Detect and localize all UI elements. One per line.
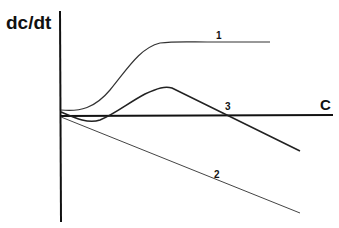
curve-2-label: 2 (214, 169, 220, 180)
diagram-canvas: dc/dt C 1 3 2 (0, 0, 339, 228)
y-axis-label: dc/dt (6, 12, 52, 33)
curve-1 (61, 42, 270, 111)
curve-3 (61, 87, 300, 151)
x-axis (60, 115, 333, 116)
x-axis-label: C (320, 96, 331, 113)
curve-1-label: 1 (216, 30, 222, 41)
curve-3-label: 3 (225, 101, 231, 112)
curve-2 (61, 117, 300, 213)
